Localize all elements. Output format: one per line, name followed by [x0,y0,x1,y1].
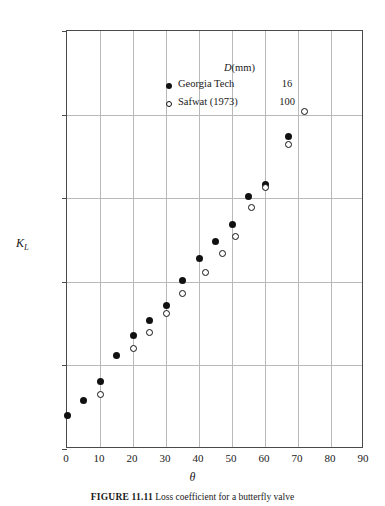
gridline-horizontal [67,115,362,116]
gridline-vertical [199,31,200,447]
legend-header-symbol: D [224,62,232,73]
x-axis-tick-label: 90 [349,453,377,464]
data-point [163,302,170,309]
data-point [80,397,87,404]
gridline-vertical [265,31,266,447]
data-point [163,310,170,317]
legend-item-diameter: 100 [270,97,304,108]
y-axis-label-sub: L [24,242,29,252]
legend-marker [166,101,172,107]
legend-item: Georgia Tech16 [164,79,314,93]
caption-text: Loss coefficient for a butterfly valve [155,492,294,502]
data-point [212,238,219,245]
legend-marker [166,83,172,89]
legend-header-unit: (mm) [232,62,255,73]
x-axis-tick-label: 40 [184,453,212,464]
data-point [179,290,186,297]
data-point [113,352,120,359]
data-point [64,412,71,419]
data-point [219,250,226,257]
gridline-horizontal [67,198,362,199]
x-axis-label: θ [0,470,385,485]
data-point [245,193,252,200]
gridline-vertical [166,31,167,447]
legend-header: D(mm) [224,63,255,74]
y-axis-tick-mark [62,365,67,366]
y-axis-tick-mark [62,282,67,283]
gridline-vertical [298,31,299,447]
data-point [146,329,153,336]
data-point [285,141,292,148]
legend-item-label: Georgia Tech [178,79,234,90]
data-point [229,221,236,228]
data-point [196,255,203,262]
x-axis-tick-label: 10 [85,453,113,464]
legend-item-label: Safwat (1973) [178,97,238,108]
y-axis-tick-mark [62,449,67,450]
y-axis-label: KL [16,236,29,252]
data-point [130,345,137,352]
data-point [248,204,255,211]
caption-label: FIGURE 11.11 [91,492,153,502]
data-point [262,184,269,191]
y-axis-label-main: K [16,236,24,250]
data-point [97,378,104,385]
data-point [202,269,209,276]
y-axis-tick-mark [62,31,67,32]
gridline-vertical [133,31,134,447]
gridline-vertical [331,31,332,447]
x-axis-tick-label: 70 [283,453,311,464]
figure-caption: FIGURE 11.11 Loss coefficient for a butt… [0,492,385,504]
data-point [130,332,137,339]
data-point [146,317,153,324]
legend-item-diameter: 16 [270,79,304,90]
plot-area: D(mm) Georgia Tech16Safwat (1973)100 [66,30,363,448]
x-axis-tick-label: 50 [217,453,245,464]
data-point [97,391,104,398]
x-axis-tick-label: 20 [118,453,146,464]
x-axis-tick-label: 0 [52,453,80,464]
data-point [179,277,186,284]
legend-item: Safwat (1973)100 [164,97,314,111]
gridline-horizontal [67,282,362,283]
data-point [232,233,239,240]
y-axis-tick-mark [62,115,67,116]
y-axis-tick-mark [62,198,67,199]
figure-container: KL D(mm) Georgia Tech16Safwat (1973)100 … [0,0,385,506]
x-axis-tick-label: 80 [316,453,344,464]
gridline-vertical [100,31,101,447]
x-axis-tick-label: 30 [151,453,179,464]
x-axis-tick-label: 60 [250,453,278,464]
gridline-horizontal [67,365,362,366]
data-point [285,133,292,140]
